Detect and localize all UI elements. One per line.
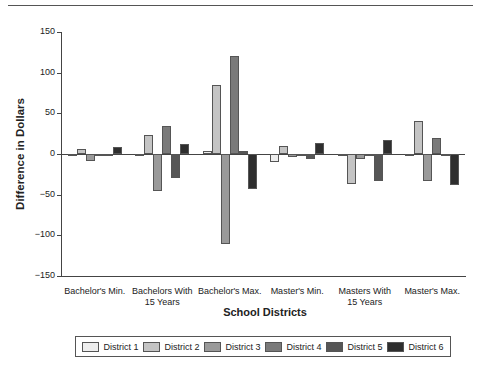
x-axis <box>61 276 466 277</box>
legend-label: District 6 <box>408 342 443 352</box>
bar <box>450 154 459 185</box>
bar <box>171 154 180 178</box>
bar <box>113 147 122 154</box>
bar <box>383 140 392 154</box>
y-tick-label: 100 <box>27 67 55 77</box>
bar <box>248 154 257 189</box>
bar <box>212 85 221 154</box>
bar <box>153 154 162 191</box>
bar <box>239 151 248 154</box>
y-tick-label: 150 <box>27 26 55 36</box>
bar <box>297 154 306 156</box>
legend: District 1District 2District 3District 4… <box>75 336 451 357</box>
bar <box>315 143 324 154</box>
bar <box>374 154 383 181</box>
top-rule <box>8 5 473 6</box>
x-tick-label: Bachelors With15 Years <box>127 286 197 308</box>
legend-label: District 5 <box>347 342 382 352</box>
bar <box>86 154 95 161</box>
bar <box>144 135 153 154</box>
legend-item: District 6 <box>387 342 443 352</box>
bar <box>180 144 189 154</box>
bar <box>423 154 432 181</box>
legend-label: District 3 <box>225 342 260 352</box>
legend-label: District 1 <box>103 342 138 352</box>
legend-item: District 3 <box>204 342 260 352</box>
bar <box>347 154 356 184</box>
y-axis-label: Difference in Dollars <box>14 74 26 234</box>
bar <box>68 154 77 156</box>
y-tick-label: −100 <box>27 229 55 239</box>
legend-label: District 2 <box>164 342 199 352</box>
legend-swatch <box>387 342 404 352</box>
x-tick-label: Master's Max. <box>397 286 467 297</box>
bar <box>95 154 104 156</box>
x-axis-label: School Districts <box>0 306 486 318</box>
bar <box>405 154 414 156</box>
bar <box>279 146 288 154</box>
bar <box>135 154 144 156</box>
legend-item: District 4 <box>265 342 321 352</box>
bar <box>414 121 423 154</box>
legend-label: District 4 <box>286 342 321 352</box>
bar <box>441 154 450 156</box>
y-tick-label: −50 <box>27 189 55 199</box>
y-tick-label: 50 <box>27 107 55 117</box>
x-tick-label: Master's Min. <box>262 286 332 297</box>
bar <box>104 154 113 156</box>
legend-swatch <box>265 342 282 352</box>
bar <box>356 154 365 159</box>
legend-item: District 1 <box>82 342 138 352</box>
bar <box>221 154 230 244</box>
bar <box>230 56 239 154</box>
bar <box>162 126 171 154</box>
y-tick-label: 0 <box>27 148 55 158</box>
bar <box>288 154 297 157</box>
legend-item: District 2 <box>143 342 199 352</box>
bar <box>203 151 212 154</box>
legend-swatch <box>82 342 99 352</box>
x-tick-label: Bachelor's Min. <box>60 286 130 297</box>
y-tick-label: −150 <box>27 270 55 280</box>
bar <box>338 154 347 156</box>
legend-swatch <box>143 342 160 352</box>
x-tick-label: Masters With15 Years <box>330 286 400 308</box>
bar <box>270 154 279 162</box>
legend-swatch <box>204 342 221 352</box>
bar <box>77 149 86 154</box>
x-tick-label: Bachelor's Max. <box>195 286 265 297</box>
legend-item: District 5 <box>326 342 382 352</box>
bar <box>365 154 374 156</box>
bar <box>306 154 315 159</box>
bar <box>432 138 441 154</box>
legend-swatch <box>326 342 343 352</box>
